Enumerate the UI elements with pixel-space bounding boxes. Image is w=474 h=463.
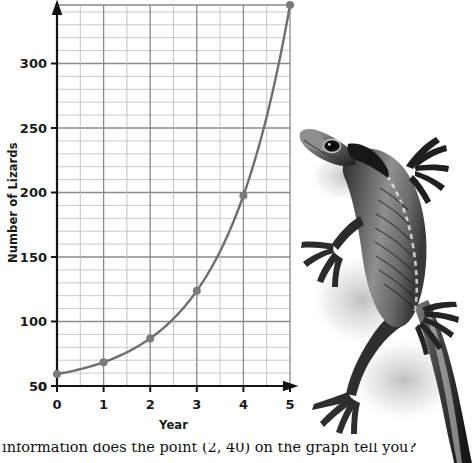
y-tick-label-zero: 0 bbox=[38, 379, 47, 394]
x-axis-tick-labels: 0 1 2 3 4 5 bbox=[52, 397, 294, 412]
y-tick-label: 200 bbox=[20, 185, 47, 200]
question-caption: information does the point (2, 40) on th… bbox=[2, 443, 416, 455]
data-point bbox=[146, 334, 154, 342]
x-tick-label: 5 bbox=[285, 397, 294, 412]
lizard-photograph bbox=[296, 104, 474, 463]
y-tick-label: 300 bbox=[20, 56, 47, 71]
y-axis-zero-label-group: 0 bbox=[38, 379, 47, 394]
grid-minor-vertical bbox=[80, 5, 266, 386]
x-tick-label: 0 bbox=[52, 397, 61, 412]
x-tick-label: 3 bbox=[192, 397, 201, 412]
x-tick-label: 1 bbox=[99, 397, 108, 412]
data-point bbox=[53, 370, 61, 378]
x-tick-label: 4 bbox=[239, 397, 248, 412]
data-point bbox=[239, 192, 247, 200]
data-point bbox=[193, 287, 201, 295]
y-tick-label: 150 bbox=[20, 250, 47, 265]
grid-major-vertical bbox=[104, 5, 290, 386]
y-axis-title: Number of Lizards bbox=[6, 143, 20, 263]
lizard-eye-glint bbox=[328, 143, 331, 146]
axis-lines bbox=[53, 3, 295, 390]
x-axis-title: Year bbox=[57, 418, 290, 432]
y-tick-label: 100 bbox=[20, 314, 47, 329]
chart-canvas: 300 250 200 150 100 50 50 0 0 1 2 3 4 5 bbox=[0, 0, 305, 440]
y-axis-tick-labels: 300 250 200 150 100 50 50 bbox=[20, 56, 47, 394]
figure-container: 300 250 200 150 100 50 50 0 0 1 2 3 4 5 bbox=[0, 0, 474, 463]
data-point bbox=[286, 1, 294, 9]
x-tick-label: 2 bbox=[146, 397, 155, 412]
y-tick-label: 250 bbox=[20, 121, 47, 136]
lizard-population-chart: 300 250 200 150 100 50 50 0 0 1 2 3 4 5 bbox=[0, 0, 305, 440]
data-point bbox=[100, 358, 108, 366]
caption-clip: information does the point (2, 40) on th… bbox=[0, 443, 474, 463]
lizard-illustration bbox=[296, 104, 474, 463]
